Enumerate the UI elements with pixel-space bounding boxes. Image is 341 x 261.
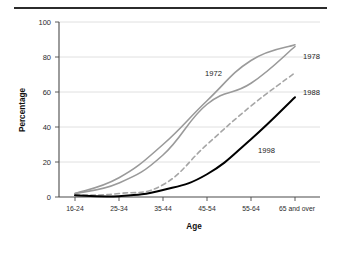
series-line-1988 bbox=[75, 73, 295, 196]
y-tick-label-40: 40 bbox=[43, 123, 51, 132]
y-tick-label-0: 0 bbox=[47, 193, 51, 202]
x-axis-title: Age bbox=[186, 222, 202, 231]
x-tick-labels: 16-24 25-34 35-44 45-54 55-64 65 and ove… bbox=[66, 205, 315, 212]
x-tick-label-65-and-over: 65 and over bbox=[279, 205, 316, 212]
series-line-1972 bbox=[75, 45, 295, 194]
x-tick-label-16-24: 16-24 bbox=[66, 205, 84, 212]
gridlines bbox=[59, 22, 320, 162]
y-tickmarks bbox=[55, 22, 59, 197]
series-annotations: 1972 1978 1988 1998 bbox=[205, 52, 320, 155]
x-tick-label-55-64: 55-64 bbox=[242, 205, 260, 212]
x-tick-label-25-34: 25-34 bbox=[110, 205, 128, 212]
series-label-1978: 1978 bbox=[303, 52, 320, 61]
chart-figure: 100 80 60 40 20 0 16-24 25-34 35-44 45-5… bbox=[0, 0, 341, 261]
series-label-1988: 1988 bbox=[303, 88, 320, 97]
y-axis-title: Percentage bbox=[18, 87, 27, 132]
y-tick-label-60: 60 bbox=[43, 88, 51, 97]
y-tick-label-80: 80 bbox=[43, 53, 51, 62]
y-tick-label-100: 100 bbox=[38, 18, 51, 27]
y-tick-labels: 100 80 60 40 20 0 bbox=[38, 18, 51, 202]
x-tick-label-45-54: 45-54 bbox=[198, 205, 216, 212]
y-tick-label-20: 20 bbox=[43, 158, 51, 167]
series-line-1978 bbox=[75, 47, 295, 194]
series-group bbox=[75, 45, 295, 197]
series-label-1998: 1998 bbox=[258, 146, 275, 155]
line-chart-plot: 100 80 60 40 20 0 16-24 25-34 35-44 45-5… bbox=[0, 0, 341, 261]
x-tickmarks bbox=[75, 197, 295, 201]
x-tick-label-35-44: 35-44 bbox=[154, 205, 172, 212]
series-label-1972: 1972 bbox=[205, 69, 222, 78]
